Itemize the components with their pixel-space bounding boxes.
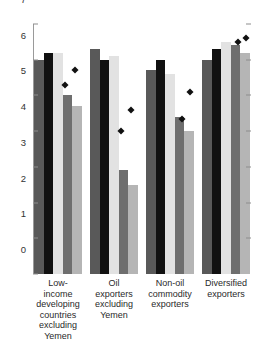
bar bbox=[63, 95, 73, 274]
bar bbox=[156, 60, 166, 274]
x-label-line: excluding bbox=[34, 320, 82, 331]
x-label-line: countries bbox=[34, 310, 82, 321]
y-tick-mark bbox=[33, 131, 38, 132]
bar bbox=[119, 170, 129, 274]
y-tick-mark bbox=[33, 238, 38, 239]
y-axis-ticks: 01234567 bbox=[0, 0, 34, 250]
bar bbox=[72, 106, 82, 274]
x-label-line: developing bbox=[34, 299, 82, 310]
y-tick-mark bbox=[33, 95, 38, 96]
bar bbox=[175, 117, 185, 274]
bar-group bbox=[202, 24, 250, 274]
y-tick-mark bbox=[33, 202, 38, 203]
right-tick-mark bbox=[246, 24, 251, 25]
bar bbox=[240, 53, 250, 274]
bar bbox=[231, 45, 241, 274]
y-tick-mark bbox=[33, 24, 38, 25]
right-tick-mark bbox=[246, 131, 251, 132]
bar-group bbox=[34, 24, 82, 274]
x-axis-category-label: Low-incomedevelopingcountriesexcludingYe… bbox=[34, 278, 82, 341]
y-tick-label: 7 bbox=[21, 0, 26, 5]
x-axis-category-label: Non-oilcommodityexporters bbox=[146, 278, 194, 310]
y-tick-label: 0 bbox=[21, 245, 26, 255]
x-label-line: exporters bbox=[146, 299, 194, 310]
bar bbox=[221, 42, 231, 274]
x-label-line: Yemen bbox=[90, 310, 138, 321]
bar bbox=[128, 185, 138, 274]
x-label-line: Low-income bbox=[34, 278, 82, 299]
y-tick-label: 5 bbox=[21, 67, 26, 77]
y-tick-mark bbox=[33, 166, 38, 167]
x-axis-category-label: Diversifiedexporters bbox=[202, 278, 250, 299]
right-tick-mark bbox=[246, 202, 251, 203]
x-axis-labels: Low-incomedevelopingcountriesexcludingYe… bbox=[34, 278, 250, 338]
y-tick-label: 1 bbox=[21, 210, 26, 220]
x-label-line: Non-oil bbox=[146, 278, 194, 289]
y-tick-label: 4 bbox=[21, 102, 26, 112]
bar bbox=[100, 60, 110, 274]
y-tick-label: 3 bbox=[21, 138, 26, 148]
y-tick-label: 6 bbox=[21, 31, 26, 41]
bar bbox=[212, 49, 222, 274]
x-label-line: excluding bbox=[90, 299, 138, 310]
bar bbox=[146, 70, 156, 274]
x-label-line: Yemen bbox=[34, 331, 82, 341]
bar bbox=[165, 74, 175, 274]
bar-group bbox=[90, 24, 138, 274]
x-label-line: Diversified bbox=[202, 278, 250, 289]
x-label-line: Oil exporters bbox=[90, 278, 138, 299]
y-tick-mark bbox=[33, 59, 38, 60]
bar bbox=[202, 60, 212, 274]
x-label-line: commodity bbox=[146, 289, 194, 300]
bar bbox=[44, 53, 54, 274]
bar bbox=[109, 56, 119, 274]
y-tick-mark bbox=[33, 274, 38, 275]
y-tick-label: 2 bbox=[21, 174, 26, 184]
right-tick-mark bbox=[246, 95, 251, 96]
x-label-line: exporters bbox=[202, 289, 250, 300]
bar bbox=[184, 131, 194, 274]
right-tick-mark bbox=[246, 166, 251, 167]
x-axis-category-label: Oil exportersexcludingYemen bbox=[90, 278, 138, 320]
plot-area bbox=[34, 24, 250, 274]
bar-group bbox=[146, 24, 194, 274]
right-tick-mark bbox=[246, 238, 251, 239]
right-tick-mark bbox=[246, 59, 251, 60]
bar bbox=[90, 49, 100, 274]
